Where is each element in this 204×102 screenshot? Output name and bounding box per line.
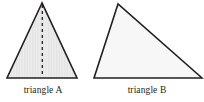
triangle-b-shape — [94, 4, 202, 78]
geometry-figure: triangle A triangle B — [0, 0, 204, 102]
triangle-a-label: triangle A — [0, 85, 86, 96]
triangle-b-label: triangle B — [104, 85, 190, 96]
